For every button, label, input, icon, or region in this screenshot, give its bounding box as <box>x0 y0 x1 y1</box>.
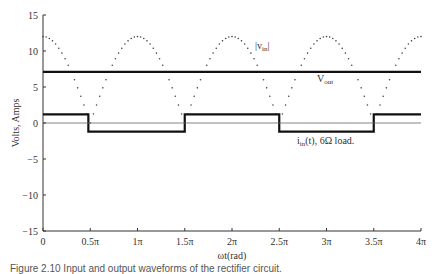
vin-dot <box>178 104 180 106</box>
vin-dot <box>102 87 104 89</box>
vin-dot <box>395 64 397 66</box>
vin-dot <box>159 58 161 60</box>
vin-dot <box>269 96 271 98</box>
vin-dot <box>341 47 343 49</box>
y-tick-label: −5 <box>27 154 38 165</box>
x-tick-label: 1π <box>132 236 142 247</box>
vin-dot <box>45 36 47 38</box>
vin-dot <box>206 64 208 66</box>
x-tick-label: 0 <box>41 236 46 247</box>
vin-dot <box>112 64 114 66</box>
vin-dot <box>190 104 192 106</box>
x-axis-title: ωt(rad) <box>218 250 247 262</box>
vin-dot <box>247 47 249 49</box>
vin-dot <box>156 52 158 54</box>
vin-dot <box>253 58 255 60</box>
vin-label: |vin| <box>255 40 269 53</box>
vin-dot <box>146 40 148 42</box>
vin-dot <box>411 40 413 42</box>
vin-dot <box>420 36 422 38</box>
vin-dot <box>335 40 337 42</box>
vin-dot <box>404 47 406 49</box>
vin-dot <box>149 43 151 45</box>
vin-dot <box>137 36 139 38</box>
vin-dot <box>382 96 384 98</box>
vin-dot <box>121 47 123 49</box>
x-tick-label: 3.5π <box>365 236 383 247</box>
vin-dot <box>228 36 230 38</box>
vin-dot <box>215 47 217 49</box>
x-tick-label: 2.5π <box>270 236 288 247</box>
vin-dot <box>118 52 120 54</box>
vin-dot <box>256 64 258 66</box>
vin-dot <box>244 43 246 45</box>
vin-dot <box>171 87 173 89</box>
vin-dot <box>234 36 236 38</box>
vin-dot <box>197 87 199 89</box>
vin-dot <box>282 113 284 115</box>
vin-dot <box>310 47 312 49</box>
iin-label: iin(t), 6Ω load. <box>297 135 354 148</box>
y-tick-label: −10 <box>22 190 38 201</box>
vin-dot <box>323 36 325 38</box>
vin-dot <box>326 36 328 38</box>
vin-dot <box>222 40 224 42</box>
x-tick-label: 3π <box>321 236 331 247</box>
y-tick-label: −15 <box>22 226 38 237</box>
y-axis-title: Volts, Amps <box>10 99 21 148</box>
vin-dot <box>266 87 268 89</box>
vin-dot <box>398 58 400 60</box>
vin-dot <box>74 79 76 81</box>
vin-dot <box>61 52 63 54</box>
vin-dot <box>130 38 132 40</box>
vin-dot <box>64 58 66 60</box>
vin-dot <box>288 96 290 98</box>
vin-dot <box>386 87 388 89</box>
x-tick-label: 4π <box>416 236 426 247</box>
vin-dot <box>367 104 369 106</box>
vin-dot <box>401 52 403 54</box>
vin-dot <box>175 96 177 98</box>
vin-dot <box>291 87 293 89</box>
vin-dot <box>193 96 195 98</box>
vin-dot <box>124 43 126 45</box>
vin-dot <box>140 36 142 38</box>
y-tick-label: 5 <box>33 82 38 93</box>
vin-dot <box>370 113 372 115</box>
vin-dot <box>168 79 170 81</box>
vin-dot <box>414 38 416 40</box>
vin-dot <box>294 79 296 81</box>
vin-dot <box>348 58 350 60</box>
vin-dot <box>96 104 98 106</box>
vin-dot <box>357 79 359 81</box>
vin-dot <box>231 36 233 38</box>
vin-dot <box>58 47 60 49</box>
vin-dot <box>360 87 362 89</box>
vin-dot <box>408 43 410 45</box>
vin-dot <box>379 104 381 106</box>
x-tick-label: 1.5π <box>176 236 194 247</box>
vin-dot <box>105 79 107 81</box>
vin-dot <box>345 52 347 54</box>
vin-dot <box>225 38 227 40</box>
vin-dot <box>313 43 315 45</box>
vin-dot <box>162 64 164 66</box>
vin-dot <box>99 96 101 98</box>
vin-dot <box>83 104 85 106</box>
vin-dot <box>152 47 154 49</box>
vin-dot <box>181 113 183 115</box>
vin-dot <box>250 52 252 54</box>
vin-dot <box>272 104 274 106</box>
vin-dot <box>80 96 82 98</box>
vin-dot <box>263 79 265 81</box>
vin-dot <box>304 58 306 60</box>
y-tick-label: 15 <box>28 10 38 21</box>
vin-dot <box>212 52 214 54</box>
vin-dot <box>52 40 54 42</box>
vin-dot <box>42 36 44 38</box>
vin-dot <box>67 64 69 66</box>
vout-label: Vout <box>317 73 333 86</box>
vin-dot <box>241 40 243 42</box>
vin-dot <box>55 43 57 45</box>
